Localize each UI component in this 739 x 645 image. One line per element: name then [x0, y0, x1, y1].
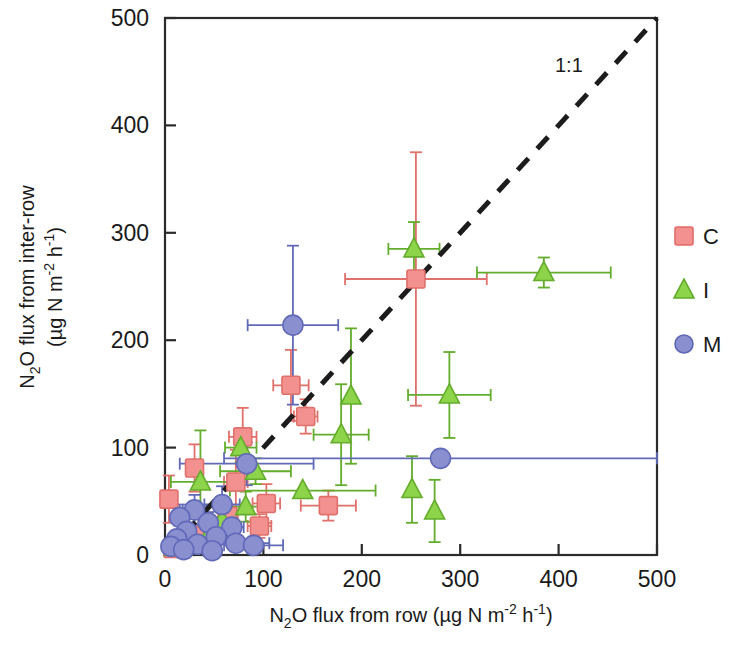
- scatter-plot-figure: 0100200300400500 0100200300400500 1:1 N2…: [0, 0, 739, 645]
- marker-square: [297, 407, 315, 425]
- x-tick-label: 500: [638, 566, 676, 592]
- y-tick-label: 500: [111, 5, 149, 31]
- one-to-one-line-label: 1:1: [555, 54, 583, 76]
- y-axis-title-group: N2O flux from inter-row (µg N m-2 h-1): [16, 185, 66, 389]
- marker-circle: [226, 533, 246, 553]
- y-axis-tick-labels: 0100200300400500: [111, 5, 149, 568]
- y-tick-label: 200: [111, 327, 149, 353]
- y-tick-label: 300: [111, 220, 149, 246]
- y-axis-ticks: [165, 18, 176, 555]
- marker-square: [227, 473, 245, 491]
- marker-circle: [244, 535, 264, 555]
- marker-square: [160, 490, 178, 508]
- x-tick-label: 0: [159, 566, 172, 592]
- legend-label-m: M: [703, 332, 721, 357]
- marker-triangle: [293, 480, 313, 499]
- y-axis-title-line1: N2O flux from inter-row: [16, 185, 43, 389]
- marker-circle: [174, 540, 194, 560]
- data-markers-layer: [160, 238, 554, 561]
- y-tick-label: 0: [136, 542, 149, 568]
- marker-circle: [431, 448, 451, 468]
- marker-triangle: [341, 385, 361, 404]
- legend-marker-square: [675, 227, 693, 245]
- legend-marker-triangle: [674, 279, 694, 298]
- marker-circle: [212, 495, 232, 515]
- x-tick-label: 100: [244, 566, 282, 592]
- marker-square: [282, 376, 300, 394]
- legend-marker-circle: [675, 335, 693, 353]
- x-axis-title: N2O flux from row (µg N m-2 h-1): [269, 601, 552, 631]
- marker-triangle: [402, 478, 422, 497]
- marker-square: [257, 494, 275, 512]
- x-tick-label: 300: [441, 566, 479, 592]
- marker-circle: [237, 454, 257, 474]
- marker-triangle: [331, 424, 351, 443]
- marker-square: [407, 270, 425, 288]
- marker-circle: [202, 541, 222, 561]
- marker-triangle: [425, 500, 445, 519]
- marker-triangle: [439, 384, 459, 403]
- marker-circle: [283, 315, 303, 335]
- y-tick-label: 100: [111, 435, 149, 461]
- y-tick-label: 400: [111, 112, 149, 138]
- x-tick-label: 200: [343, 566, 381, 592]
- marker-square: [250, 517, 268, 535]
- x-axis-tick-labels: 0100200300400500: [159, 566, 677, 592]
- plot-canvas: 0100200300400500 0100200300400500 1:1 N2…: [0, 0, 739, 645]
- y-axis-title-line2: (µg N m-2 h-1): [41, 227, 66, 347]
- marker-square: [319, 497, 337, 515]
- legend-label-c: C: [703, 224, 719, 249]
- legend-label-i: I: [703, 278, 709, 303]
- marker-triangle: [404, 238, 424, 257]
- x-tick-label: 400: [539, 566, 577, 592]
- marker-triangle: [534, 262, 554, 281]
- legend: CIM: [674, 224, 721, 357]
